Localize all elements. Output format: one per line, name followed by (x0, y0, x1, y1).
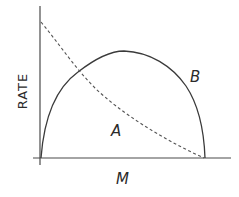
chart-plot-area (0, 0, 239, 197)
curve-b-label: B (190, 70, 200, 85)
curve-b-solid (41, 51, 205, 158)
y-axis-label: RATE (16, 73, 29, 110)
x-axis-label: M (116, 172, 129, 187)
rate-vs-m-chart: RATE M A B (0, 0, 239, 197)
curve-a-dashed (41, 22, 204, 158)
curve-a-label: A (111, 124, 121, 139)
